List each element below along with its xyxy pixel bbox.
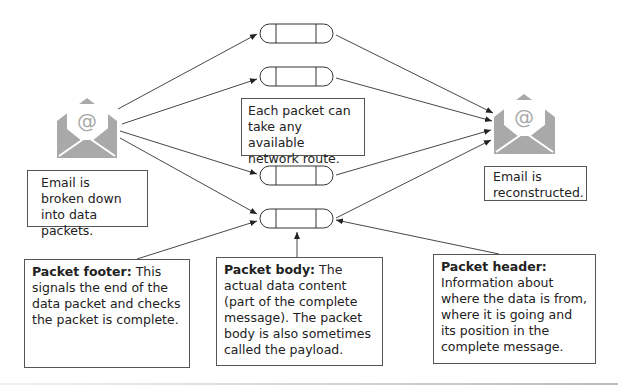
svg-text:@: @ (514, 105, 534, 129)
body-term: Packet body: (224, 262, 315, 277)
destination-label: Email is reconstructed. (484, 166, 587, 201)
source-label: Email is broken down into data packets. (27, 170, 148, 227)
packet-footer-callout: Packet footer: This signals the end of t… (24, 259, 190, 368)
source-email-envelope-icon: @ (57, 98, 117, 158)
header-text: Information about where the data is from… (441, 275, 587, 354)
packet-2 (260, 67, 333, 86)
at-symbol-icon: @ (77, 109, 97, 133)
footer-term: Packet footer: (32, 264, 132, 279)
packet-body-callout: Packet body: The actual data content (pa… (216, 257, 383, 366)
packet-1 (260, 24, 333, 43)
route-label: Each packet can take any available netwo… (241, 98, 365, 156)
packet-4 (260, 209, 333, 228)
packet-3 (260, 166, 333, 185)
destination-email-envelope-icon: @ (494, 94, 555, 154)
packet-header-callout: Packet header: Information about where t… (433, 254, 596, 364)
header-term: Packet header: (441, 259, 547, 274)
